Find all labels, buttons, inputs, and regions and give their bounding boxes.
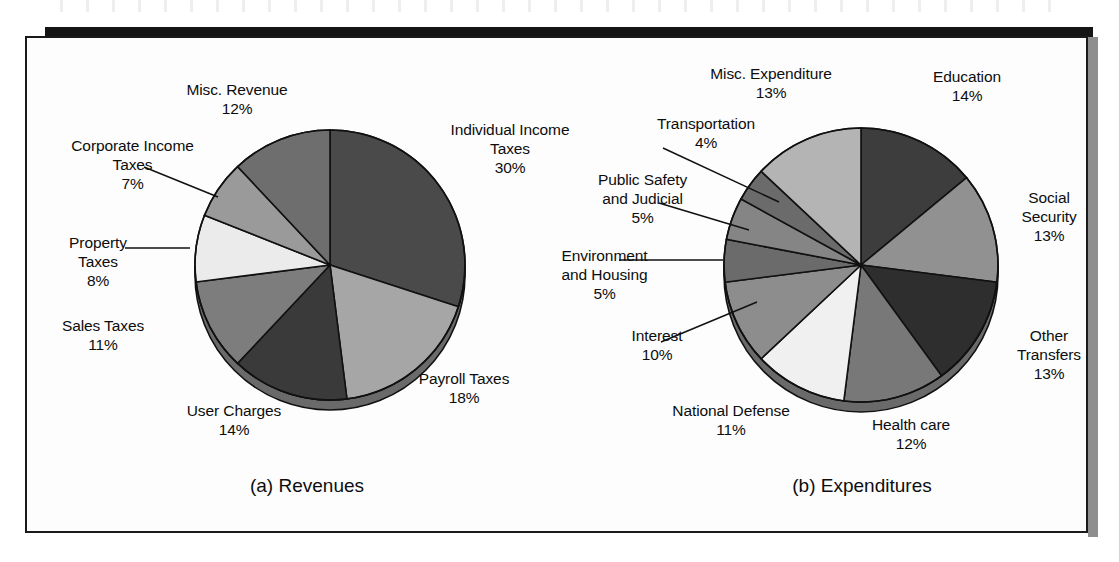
- label-corporate-income-taxes: Corporate IncomeTaxes7%: [25, 136, 240, 193]
- label-national-defense: National Defense11%: [631, 401, 831, 439]
- caption-expenditures: (b) Expenditures: [717, 475, 1007, 497]
- label-misc-expenditure: Misc. Expenditure13%: [661, 64, 881, 102]
- figure-frame: Misc. Revenue12% Corporate IncomeTaxes7%…: [25, 36, 1088, 533]
- label-sales-taxes: Sales Taxes11%: [33, 316, 173, 354]
- expenditures-pie-chart: [711, 120, 1011, 430]
- label-transportation: Transportation4%: [611, 114, 801, 152]
- label-user-charges: User Charges14%: [149, 401, 319, 439]
- caption-revenues: (a) Revenues: [162, 475, 452, 497]
- figure-stage: Misc. Revenue12% Corporate IncomeTaxes7%…: [0, 0, 1119, 562]
- label-health-care: Health care12%: [831, 415, 991, 453]
- label-other-transfers: OtherTransfers13%: [989, 326, 1109, 383]
- label-interest: Interest10%: [597, 326, 717, 364]
- label-payroll-taxes: Payroll Taxes18%: [384, 369, 544, 407]
- label-property-taxes: PropertyTaxes8%: [43, 233, 153, 290]
- label-individual-income-taxes: Individual IncomeTaxes30%: [415, 120, 605, 177]
- label-social-security: SocialSecurity13%: [989, 188, 1109, 245]
- scan-artifact: [60, 0, 1060, 12]
- label-environment-and-housing: Environmentand Housing5%: [517, 246, 692, 303]
- label-public-safety-and-judicial: Public Safetyand Judicial5%: [555, 170, 730, 227]
- label-education: Education14%: [887, 67, 1047, 105]
- label-misc-revenue: Misc. Revenue12%: [137, 80, 337, 118]
- frame-right-shadow: [1088, 37, 1098, 537]
